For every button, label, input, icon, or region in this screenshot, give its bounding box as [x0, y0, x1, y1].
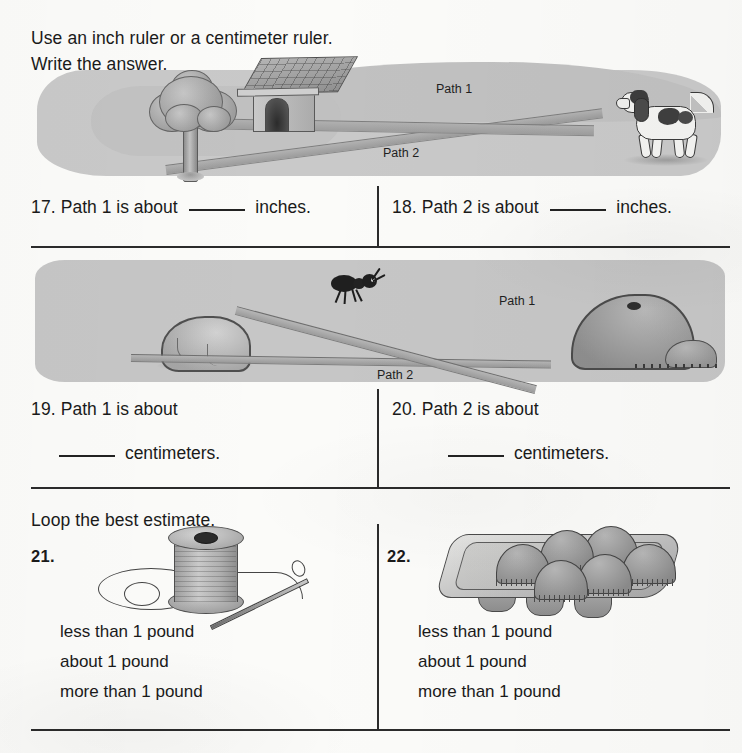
answer-blank[interactable]: [448, 455, 504, 457]
question-suffix: inches.: [616, 197, 671, 217]
dog-tail: [690, 92, 714, 113]
doghouse-roof-edge: [237, 87, 319, 96]
column-divider: [377, 524, 379, 730]
dog-shadow: [624, 154, 708, 166]
spool-center-hole: [194, 532, 218, 544]
ant-icon: [331, 270, 387, 302]
item-21-number: 21.: [31, 547, 55, 566]
dog-ear: [634, 98, 649, 122]
question-20: 20. Path 2 is about: [392, 399, 539, 420]
ant-trail-dots: [635, 364, 723, 368]
question-17: 17. Path 1 is about inches.: [31, 197, 311, 218]
question-prefix: Path 2 is about: [422, 197, 539, 217]
answer-blank[interactable]: [189, 209, 245, 211]
answer-blank[interactable]: [59, 455, 115, 457]
answer-blank[interactable]: [550, 209, 606, 211]
question-prefix: Path 1 is about: [61, 399, 178, 419]
anthill-entrance-hole: [627, 302, 641, 310]
thread-loop-small: [124, 582, 160, 606]
question-19: 19. Path 1 is about: [31, 399, 178, 420]
worksheet-page: Use an inch ruler or a centimeter ruler.…: [0, 0, 742, 753]
choice-option[interactable]: less than 1 pound: [60, 617, 203, 647]
question-suffix: inches.: [255, 197, 310, 217]
needle-eye: [289, 558, 308, 579]
column-divider: [377, 389, 379, 488]
illustration-dog-paths: Path 1 Path 2: [31, 62, 731, 182]
path-2-label: Path 2: [383, 146, 419, 160]
choice-option[interactable]: more than 1 pound: [418, 677, 561, 707]
ant-leg: [335, 290, 342, 303]
question-number: 20.: [392, 399, 417, 419]
question-suffix: centimeters.: [125, 443, 220, 463]
question-suffix: centimeters.: [514, 443, 609, 463]
doghouse-door-icon: [265, 98, 289, 132]
column-divider: [377, 186, 379, 247]
section-divider: [31, 729, 730, 731]
illustration-ant-paths: Path 1 Path 2: [31, 258, 731, 384]
dog-snout: [616, 98, 630, 109]
question-prefix: Path 1 is about: [61, 197, 178, 217]
question-19-answer-line: centimeters.: [59, 443, 220, 464]
question-number: 19.: [31, 399, 56, 419]
path-1-label: Path 1: [499, 294, 535, 308]
section-divider: [31, 246, 730, 248]
illustration-muffin-tin: [430, 516, 690, 616]
question-number: 17.: [31, 197, 56, 217]
choice-option[interactable]: more than 1 pound: [60, 677, 203, 707]
tree-canopy-lobe: [197, 106, 231, 132]
question-20-answer-line: centimeters.: [448, 443, 609, 464]
item-22-choices: less than 1 pound about 1 pound more tha…: [418, 617, 561, 707]
instruction-line-1: Use an inch ruler or a centimeter ruler.: [31, 28, 333, 49]
question-18: 18. Path 2 is about inches.: [392, 197, 672, 218]
illustration-spool-of-thread: [86, 524, 336, 616]
section-divider: [31, 487, 730, 489]
choice-option[interactable]: less than 1 pound: [418, 617, 561, 647]
dog-icon: [616, 80, 716, 172]
question-prefix: Path 2 is about: [422, 399, 539, 419]
path-2-label: Path 2: [377, 368, 413, 382]
choice-option[interactable]: about 1 pound: [60, 647, 203, 677]
question-number: 18.: [392, 197, 417, 217]
dog-spot: [678, 111, 693, 124]
item-22-number: 22.: [387, 547, 411, 566]
path-1-label: Path 1: [436, 82, 472, 96]
choice-option[interactable]: about 1 pound: [418, 647, 561, 677]
item-21-choices: less than 1 pound about 1 pound more tha…: [60, 617, 203, 707]
